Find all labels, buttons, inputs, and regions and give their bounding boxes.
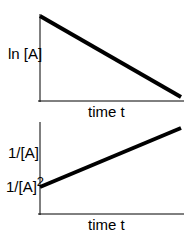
chart-canvas: ln [A] time t 1/[A] 1/[A]2 time t — [0, 0, 190, 234]
top-data-line — [40, 16, 181, 97]
top-x-label: time t — [88, 103, 126, 120]
bottom-x-label: time t — [88, 216, 126, 233]
bottom-data-line — [40, 128, 181, 187]
top-y-label: ln [A] — [8, 45, 42, 62]
bottom-intercept-label: 1/[A]2 — [6, 174, 44, 195]
bottom-plot: 1/[A] 1/[A]2 time t — [6, 122, 184, 233]
bottom-y-label: 1/[A] — [8, 144, 39, 161]
top-plot: ln [A] time t — [8, 14, 184, 120]
